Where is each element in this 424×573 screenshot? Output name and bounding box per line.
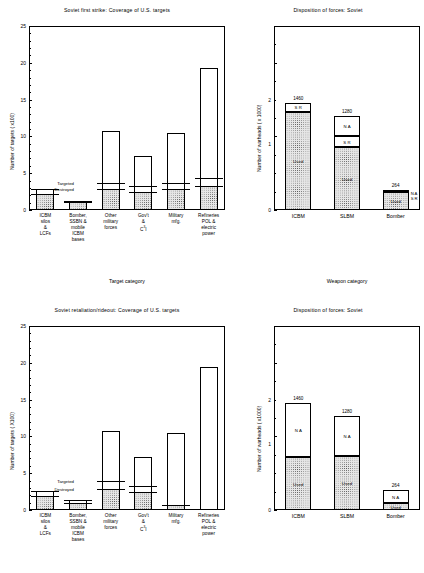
category-label: SLBM [323,213,371,220]
y-axis-tick [274,326,276,327]
y-axis-tick [29,129,31,130]
category-label: ICBM [274,513,322,520]
y-axis-tick [29,363,32,364]
y-axis-tick [274,510,277,511]
y-axis-tick [29,48,31,49]
y-axis-tick [29,173,32,174]
y-tick-label: 2 [262,397,271,403]
y-tick-label: 25 [14,323,26,329]
segment-label: Used [285,159,311,164]
destroyed-marker-label: Destroyed [42,487,74,492]
destroyed-marker-line [31,194,59,195]
y-axis-tick [29,436,32,437]
destroyed-marker-line [162,189,190,190]
bar-covered-fill [69,202,87,210]
y-axis-tick [29,503,31,504]
y-axis-tick [29,92,31,93]
y-axis-label: Number of warheads ( x 1000) [256,104,262,172]
bar-covered-fill [167,189,185,210]
y-axis-tick [29,151,31,152]
y-axis-tick [29,392,31,393]
bar-covered-fill [102,489,120,510]
bar-value-label: 1460 [279,396,317,401]
bar-covered-fill [134,192,152,210]
destroyed-marker-line [97,189,125,190]
destroyed-marker-line [97,489,125,490]
y-axis-tick [274,26,276,27]
y-axis-tick [29,78,31,79]
y-axis-tick [29,26,32,27]
bar-total [167,433,185,510]
y-axis-tick [29,63,32,64]
segment-label: Used [285,481,311,486]
destroyed-marker-line [129,192,157,193]
targeted-marker-line [64,500,92,501]
segment-label: N A [334,124,360,129]
chart-title: Soviet first strike: Coverage of U.S. ta… [10,7,224,13]
y-axis-tick [29,158,31,159]
y-axis-tick [29,181,31,182]
targeted-marker-line [195,178,223,179]
y-axis-tick [29,466,31,467]
y-axis-tick [29,85,31,86]
y-axis-tick [274,118,276,119]
panel-bottom-left: Soviet retaliation/rideout: Coverage of … [0,300,232,573]
bar-value-label: 1280 [328,109,366,114]
panel-top-left: Soviet first strike: Coverage of U.S. ta… [0,0,232,290]
y-axis-tick [274,100,276,101]
panel-top-right: Disposition of forces: Soviet Number of … [232,0,424,290]
y-axis-tick [29,444,31,445]
targeted-marker-line [97,183,125,184]
bar-covered-fill [36,496,54,510]
y-axis-tick [274,400,276,401]
bar-value-label: 264 [377,183,415,188]
y-axis-tick [29,370,31,371]
y-axis-tick [29,333,31,334]
bar-segment [383,190,409,192]
y-axis-tick [29,33,31,34]
category-label-line: power [187,531,231,537]
y-axis-tick [274,455,276,456]
y-axis-tick [29,458,31,459]
bar-value-label: 1460 [279,96,317,101]
y-tick-label: 5 [14,170,26,176]
y-axis-tick [274,363,277,364]
destroyed-marker-line [31,496,59,497]
y-tick-label: 0 [262,207,271,213]
y-axis-tick [29,144,31,145]
category-label: ICBM [274,213,322,220]
category-label: Bomber [372,213,420,220]
y-axis-tick [274,44,276,45]
y-axis-tick [29,55,31,56]
targeted-marker-line [97,481,125,482]
y-axis-tick [29,107,31,108]
y-axis-tick [274,155,276,156]
category-label-line: C3I [121,225,165,233]
y-axis-tick [29,378,31,379]
y-axis-tick [274,173,276,174]
targeted-marker-line [129,486,157,487]
y-axis-tick [29,481,31,482]
y-axis-tick [274,63,277,64]
y-axis-tick [29,451,31,452]
y-tick-label: 25 [14,23,26,29]
destroyed-marker-line [64,503,92,504]
category-label: RefineriesPOL &electricpower [187,513,231,537]
category-label: SLBM [323,513,371,520]
category-label: Bomber [372,513,420,520]
segment-label: S R [334,139,360,144]
category-label-line: power [187,231,231,237]
y-axis-label: Number of targets ( x100) [9,113,15,170]
category-label-line: C3I [121,525,165,533]
y-axis-tick [29,70,31,71]
y-axis-tick [274,418,276,419]
segment-label: N A [334,433,360,438]
y-axis-tick [29,422,31,423]
category-label-line: bases [56,537,100,543]
y-axis-tick [29,407,31,408]
targeted-marker-label: Targeted [42,180,74,185]
segment-label: Used [383,199,409,204]
y-axis-tick [29,341,31,342]
y-axis-label: Number of warheads ( x1000) [256,406,262,472]
chart-title: Disposition of forces: Soviet [236,307,420,313]
